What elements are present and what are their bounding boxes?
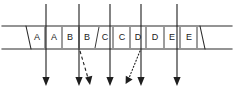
pointer-arrow-dotted-head [126,76,133,84]
cell-label-1: A [51,32,57,42]
cell-divider-slanted [95,27,99,48]
left-notch-icon [26,26,31,49]
pointer-arrow-dotted [126,51,140,84]
pointer-arrow-2 [75,4,82,86]
pointer-arrow-4-head [137,77,144,86]
cell-label-2: B [67,32,73,42]
diagram-canvas: A A B B C C D D E E [0,0,234,94]
pointer-arrow-4 [137,4,144,86]
pointer-arrow-5-head [173,77,180,86]
cell-label-7: D [152,32,159,42]
cell-label-0: A [34,32,40,42]
right-notch-icon [200,26,205,49]
pointer-arrow-dashed-head [85,76,92,85]
cell-label-5: C [119,32,126,42]
pointer-arrow-1-head [42,77,49,86]
cell-label-4: C [102,32,109,42]
pointer-arrow-2-head [75,77,82,86]
pointer-arrow-1 [42,4,49,86]
pointer-arrow-dotted-shaft [129,51,140,78]
pointer-arrow-dashed [80,51,92,85]
pointer-arrow-dashed-shaft [80,51,88,78]
cell-label-8: E [169,32,175,42]
cell-label-9: E [186,32,192,42]
pointer-arrows-group [42,4,180,86]
cell-label-3: B [84,32,90,42]
pointer-arrow-3-head [106,77,113,86]
sequence-strip-diagram: A A B B C C D D E E [0,0,234,94]
